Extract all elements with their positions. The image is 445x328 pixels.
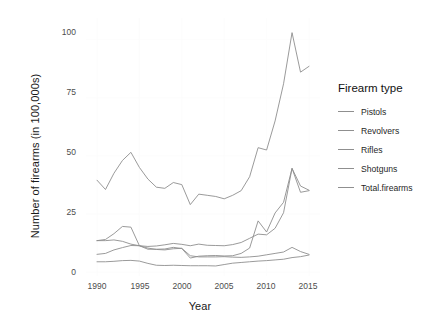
- x-tick-label-2000: 2000: [165, 281, 199, 291]
- x-tick-label-2005: 2005: [207, 281, 241, 291]
- x-axis-title: Year: [85, 300, 315, 312]
- line-chart: Number of firearms (in 100,000s) 100 75 …: [0, 0, 445, 328]
- legend-item-total-firearms[interactable]: Total.firearms: [338, 178, 443, 197]
- legend-line-icon-total-firearms: [338, 183, 354, 193]
- legend-label-revolvers: Revolvers: [361, 126, 399, 136]
- y-tick-label-0: 0: [46, 267, 76, 277]
- legend-label-total-firearms: Total.firearms: [361, 183, 413, 193]
- x-tick-label-2015: 2015: [291, 281, 325, 291]
- legend-item-rifles[interactable]: Rifles: [338, 140, 443, 159]
- legend-item-revolvers[interactable]: Revolvers: [338, 121, 443, 140]
- x-tick-label-2010: 2010: [249, 281, 283, 291]
- plot-lines-svg: [86, 18, 320, 276]
- y-tick-label-75: 75: [46, 87, 76, 97]
- legend: Firearm type Pistols Revolvers Rifles Sh…: [338, 82, 443, 197]
- legend-label-pistols: Pistols: [361, 107, 386, 117]
- legend-title: Firearm type: [338, 82, 443, 94]
- x-tick-label-1995: 1995: [123, 281, 157, 291]
- series-line-revolvers: [97, 226, 309, 257]
- series-line-pistols: [97, 168, 309, 246]
- legend-item-shotguns[interactable]: Shotguns: [338, 159, 443, 178]
- legend-label-rifles: Rifles: [361, 145, 383, 155]
- y-tick-label-100: 100: [46, 27, 76, 37]
- x-tick-label-1990: 1990: [80, 281, 114, 291]
- legend-line-icon-pistols: [338, 107, 354, 117]
- legend-line-icon-revolvers: [338, 126, 354, 136]
- legend-line-icon-rifles: [338, 145, 354, 155]
- y-tick-label-25: 25: [46, 207, 76, 217]
- y-axis-title: Number of firearms (in 100,000s): [29, 46, 41, 266]
- series-line-total-firearms: [97, 33, 309, 205]
- legend-label-shotguns: Shotguns: [361, 164, 397, 174]
- legend-line-icon-shotguns: [338, 164, 354, 174]
- y-tick-label-50: 50: [46, 147, 76, 157]
- legend-item-pistols[interactable]: Pistols: [338, 102, 443, 121]
- plot-panel: [86, 18, 320, 276]
